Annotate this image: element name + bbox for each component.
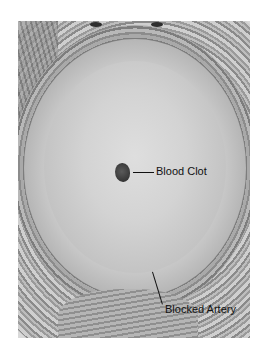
tissue-fragment — [90, 22, 102, 27]
blocked-artery-label: Blocked Artery — [165, 304, 236, 315]
blood-clot — [115, 163, 130, 182]
tissue-fragment — [151, 22, 163, 27]
blood-clot-leader-line — [133, 172, 154, 173]
artery-micrograph — [18, 21, 250, 338]
blood-clot-label: Blood Clot — [156, 166, 207, 177]
